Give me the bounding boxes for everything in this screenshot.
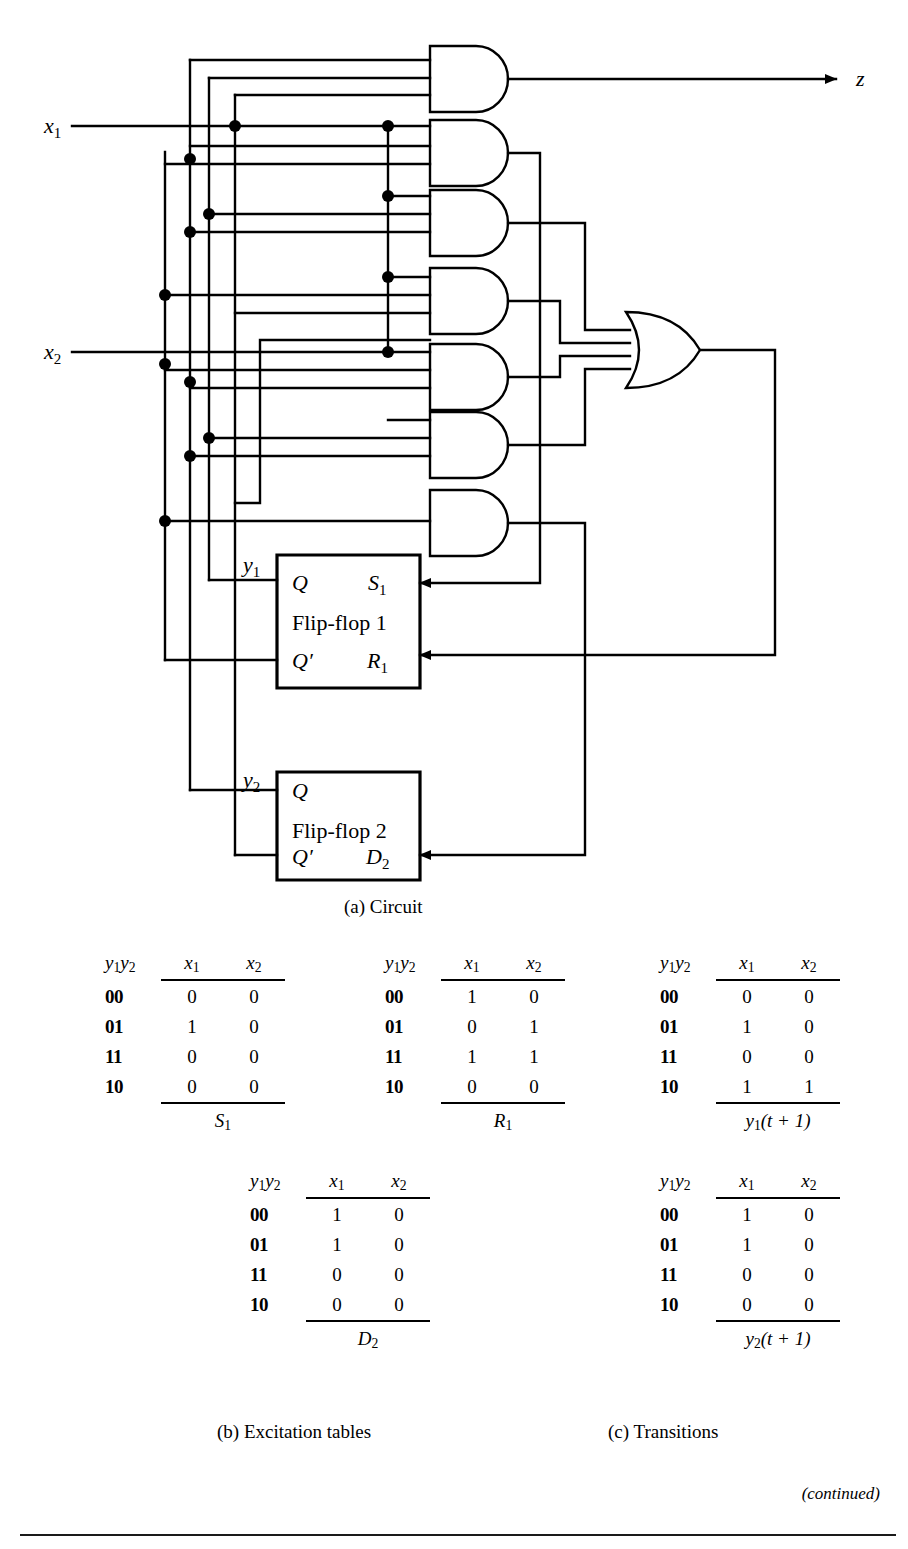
table-row: 1011 xyxy=(660,1072,840,1102)
value-cell: 1 xyxy=(716,1200,778,1230)
header-rule xyxy=(716,1197,840,1199)
col-header-x2: x2 xyxy=(223,952,285,976)
table-row: 0000 xyxy=(660,982,840,1012)
table-caption: S1 xyxy=(161,1110,285,1134)
value-cell: 1 xyxy=(716,1230,778,1260)
table-row: 0101 xyxy=(385,1012,565,1042)
value-cell: 0 xyxy=(306,1290,368,1320)
state-cell: 01 xyxy=(660,1012,716,1042)
state-cell: 10 xyxy=(385,1072,441,1102)
state-cell: 00 xyxy=(105,982,161,1012)
ff2-q-label: Q xyxy=(292,778,308,803)
table-row: 0010 xyxy=(660,1200,840,1230)
value-cell: 0 xyxy=(161,1042,223,1072)
state-label-y2: y2 xyxy=(241,767,260,795)
footer-rule xyxy=(716,1320,840,1322)
footer-rule xyxy=(716,1102,840,1104)
table-row: 0010 xyxy=(250,1200,430,1230)
table-row: 0110 xyxy=(660,1012,840,1042)
table-row: 1100 xyxy=(660,1042,840,1072)
state-cell: 11 xyxy=(660,1260,716,1290)
value-cell: 0 xyxy=(778,1230,840,1260)
value-cell: 0 xyxy=(161,1072,223,1102)
state-cell: 10 xyxy=(250,1290,306,1320)
row-header-label: y1y2 xyxy=(660,952,716,976)
state-cell: 11 xyxy=(105,1042,161,1072)
footer-rule xyxy=(161,1102,285,1104)
col-header-x1: x1 xyxy=(306,1170,368,1194)
value-cell: 0 xyxy=(223,982,285,1012)
table-header: y1y2x1x2 xyxy=(250,1170,430,1200)
value-cell: 1 xyxy=(778,1072,840,1102)
value-cell: 0 xyxy=(716,1290,778,1320)
table-footer: R1 xyxy=(385,1102,565,1138)
footer-divider xyxy=(20,1534,896,1536)
table-row: 1100 xyxy=(105,1042,285,1072)
table-row: 1111 xyxy=(385,1042,565,1072)
col-header-x2: x2 xyxy=(503,952,565,976)
table-footer: S1 xyxy=(105,1102,285,1138)
value-cell: 1 xyxy=(161,1012,223,1042)
ff2-d-label: D2 xyxy=(365,844,389,872)
table-header: y1y2x1x2 xyxy=(660,1170,840,1200)
value-cell: 0 xyxy=(778,1012,840,1042)
value-cell: 0 xyxy=(223,1042,285,1072)
ff1-r-label: R1 xyxy=(366,648,388,676)
state-cell: 00 xyxy=(660,1200,716,1230)
value-cell: 0 xyxy=(778,1200,840,1230)
caption-excitation-tables: (b) Excitation tables xyxy=(217,1421,371,1443)
row-header-label: y1y2 xyxy=(250,1170,306,1194)
row-header-label: y1y2 xyxy=(385,952,441,976)
value-cell: 1 xyxy=(441,982,503,1012)
value-cell: 0 xyxy=(778,1042,840,1072)
state-cell: 11 xyxy=(660,1042,716,1072)
caption-circuit: (a) Circuit xyxy=(344,896,423,918)
table-caption: y1(t + 1) xyxy=(716,1110,840,1134)
state-cell: 11 xyxy=(385,1042,441,1072)
value-cell: 0 xyxy=(778,982,840,1012)
value-cell: 1 xyxy=(716,1072,778,1102)
col-header-x1: x1 xyxy=(716,1170,778,1194)
ff2-qbar-label: Q′ xyxy=(292,844,314,869)
col-header-x1: x1 xyxy=(716,952,778,976)
state-cell: 11 xyxy=(250,1260,306,1290)
value-cell: 0 xyxy=(368,1290,430,1320)
state-label-y1: y1 xyxy=(241,552,260,580)
header-rule xyxy=(716,979,840,981)
value-cell: 1 xyxy=(716,1012,778,1042)
value-cell: 0 xyxy=(161,982,223,1012)
circuit-diagram: x1 x2 z y1 y2 Q S1 Flip-flop 1 Q′ R1 Q F… xyxy=(0,0,908,900)
table-header: y1y2x1x2 xyxy=(660,952,840,982)
state-cell: 01 xyxy=(250,1230,306,1260)
table-caption: D2 xyxy=(306,1328,430,1352)
col-header-x2: x2 xyxy=(778,952,840,976)
table-row: 0110 xyxy=(660,1230,840,1260)
table-row: 1100 xyxy=(660,1260,840,1290)
footer-rule xyxy=(441,1102,565,1104)
value-cell: 1 xyxy=(503,1042,565,1072)
table-r1: y1y2x1x2 0010 0101 1111 1000 R1 xyxy=(385,952,565,1138)
state-cell: 00 xyxy=(385,982,441,1012)
value-cell: 0 xyxy=(306,1260,368,1290)
table-d2: y1y2x1x2 0010 0110 1100 1000 D2 xyxy=(250,1170,430,1356)
header-rule xyxy=(161,979,285,981)
col-header-x2: x2 xyxy=(778,1170,840,1194)
ff1-s-label: S1 xyxy=(368,570,387,598)
col-header-x1: x1 xyxy=(441,952,503,976)
table-footer: y1(t + 1) xyxy=(660,1102,840,1138)
value-cell: 0 xyxy=(778,1260,840,1290)
value-cell: 0 xyxy=(441,1012,503,1042)
table-header: y1y2x1x2 xyxy=(105,952,285,982)
table-footer: y2(t + 1) xyxy=(660,1320,840,1356)
value-cell: 1 xyxy=(306,1230,368,1260)
row-header-label: y1y2 xyxy=(105,952,161,976)
value-cell: 0 xyxy=(716,1260,778,1290)
header-rule xyxy=(306,1197,430,1199)
table-y1-next: y1y2x1x2 0000 0110 1100 1011 y1(t + 1) xyxy=(660,952,840,1138)
col-header-x2: x2 xyxy=(368,1170,430,1194)
state-cell: 00 xyxy=(660,982,716,1012)
value-cell: 1 xyxy=(503,1012,565,1042)
table-row: 1100 xyxy=(250,1260,430,1290)
table-row: 0010 xyxy=(385,982,565,1012)
state-cell: 10 xyxy=(660,1072,716,1102)
